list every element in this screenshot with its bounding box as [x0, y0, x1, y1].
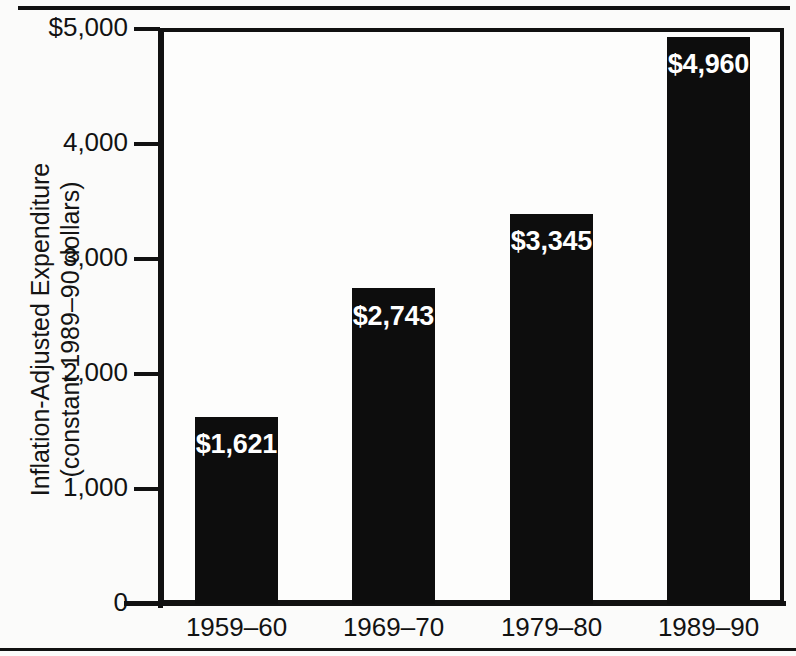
y-tick-mark-5000 [134, 27, 160, 31]
y-axis-title-line-1: Inflation-Adjusted Expenditure [26, 50, 56, 610]
x-category-label-1969-70: 1969–70 [313, 612, 474, 643]
x-category-label-1979-80: 1979–80 [471, 612, 632, 643]
y-tick-mark-3000 [134, 257, 160, 261]
y-tick-label-5000: $5,000 [48, 12, 128, 43]
bar-1959-60: $1,621 [195, 417, 278, 604]
y-tick-mark-2000 [134, 372, 160, 376]
bar-value-1969-70: $2,743 [352, 301, 435, 332]
y-tick-label-0: 0 [114, 587, 128, 618]
bottom-rule [0, 648, 796, 651]
y-tick-label-4000: 4,000 [63, 127, 128, 158]
bar-value-1989-90: $4,960 [667, 49, 750, 80]
bar-value-1959-60: $1,621 [195, 429, 278, 460]
y-tick-mark-4000 [134, 142, 160, 146]
x-category-label-1989-90: 1989–90 [628, 612, 789, 643]
y-tick-mark-1000 [134, 487, 160, 491]
bar-1969-70: $2,743 [352, 288, 435, 604]
y-tick-mark-0 [134, 602, 160, 606]
y-tick-label-1000: 1,000 [63, 472, 128, 503]
bar-1979-80: $3,345 [510, 214, 593, 604]
y-axis-line [158, 28, 163, 608]
y-tick-label-2000: 2,000 [63, 357, 128, 388]
x-category-label-1959-60: 1959–60 [156, 612, 317, 643]
bar-1989-90: $4,960 [667, 37, 750, 604]
y-tick-label-3000: 3,000 [63, 242, 128, 273]
top-rule [18, 6, 790, 10]
bar-value-1979-80: $3,345 [510, 226, 593, 257]
chart-figure: Inflation-Adjusted Expenditure (constant… [0, 0, 796, 656]
